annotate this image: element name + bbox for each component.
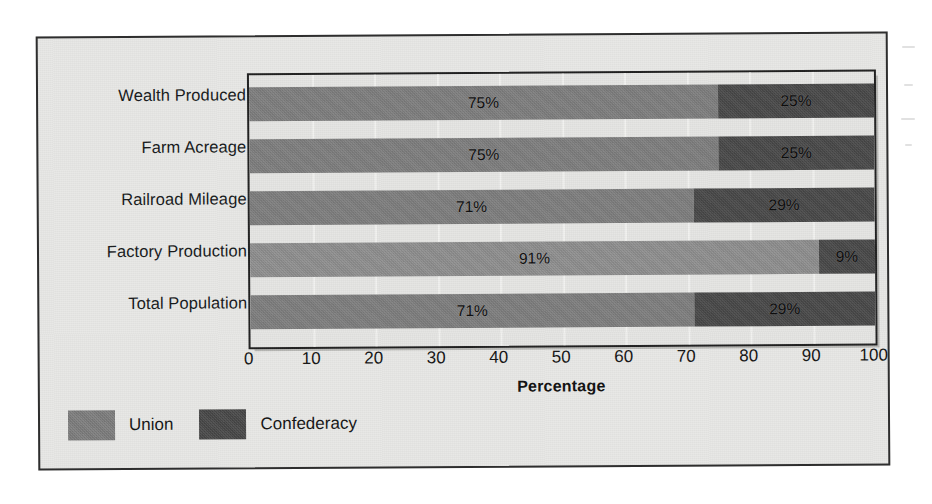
legend-item-confederacy: Confederacy [199, 409, 357, 440]
category-axis-labels: Wealth Produced Farm Acreage Railroad Mi… [38, 79, 248, 342]
x-tick-label: 90 [802, 346, 821, 366]
bar-value-label: 91% [519, 249, 550, 267]
category-label: Factory Production [39, 241, 247, 261]
bar-value-label: 29% [769, 300, 800, 318]
x-tick-label: 70 [677, 347, 696, 367]
x-tick-label: 30 [427, 348, 446, 368]
bar-value-label: 25% [781, 144, 812, 162]
bar-segment-union: 71% [250, 293, 694, 330]
x-axis-title: Percentage [249, 375, 874, 397]
bar-segment-union: 91% [250, 240, 819, 277]
category-label: Farm Acreage [38, 137, 246, 157]
bar-segment-confederacy: 9% [819, 239, 875, 273]
category-label: Total Population [39, 293, 247, 313]
legend-swatch-icon [68, 410, 115, 440]
bar-segment-union: 75% [249, 84, 718, 121]
x-tick-label: 0 [244, 349, 254, 369]
bar-value-label: 75% [468, 94, 499, 112]
category-label: Wealth Produced [38, 85, 246, 105]
bar-row: 75% 25% [249, 83, 874, 121]
legend-label: Confederacy [260, 414, 357, 435]
bar-row: 75% 25% [249, 135, 874, 173]
plot-area: 75% 25% 75% 25% 71% [247, 69, 878, 349]
bar-value-label: 71% [456, 198, 487, 216]
x-axis-ticks: 0 10 20 30 40 50 60 70 80 90 100 [249, 345, 874, 375]
chart-screenshot: Wealth Produced Farm Acreage Railroad Mi… [0, 0, 932, 504]
bar-row: 71% 29% [250, 291, 875, 329]
bar-row: 71% 29% [250, 187, 875, 225]
bar-value-label: 9% [836, 248, 859, 266]
bar-value-label: 29% [769, 196, 800, 214]
bar-value-label: 25% [780, 92, 811, 110]
bar-segment-confederacy: 29% [694, 291, 875, 326]
x-tick-label: 10 [302, 349, 321, 369]
x-tick-label: 60 [614, 347, 633, 367]
legend-label: Union [129, 415, 174, 435]
x-tick-label: 100 [859, 345, 887, 365]
legend-item-union: Union [68, 410, 174, 441]
bar-segment-union: 71% [250, 189, 694, 226]
legend: Union Confederacy [68, 409, 357, 441]
scanned-page-frame: Wealth Produced Farm Acreage Railroad Mi… [36, 31, 891, 470]
x-tick-label: 50 [552, 347, 571, 367]
bar-segment-union: 75% [249, 136, 718, 173]
bar-value-label: 71% [457, 302, 488, 320]
legend-swatch-icon [199, 409, 246, 439]
x-tick-label: 80 [739, 346, 758, 366]
x-tick-label: 40 [489, 348, 508, 368]
bar-value-label: 75% [468, 146, 499, 164]
bar-segment-confederacy: 25% [718, 135, 874, 170]
bar-segment-confederacy: 25% [718, 83, 874, 118]
x-tick-label: 20 [364, 348, 383, 368]
bar-row: 91% 9% [250, 239, 875, 277]
category-label: Railroad Mileage [39, 189, 247, 209]
scan-artifact-marks [900, 40, 922, 160]
bar-segment-confederacy: 29% [693, 187, 874, 222]
